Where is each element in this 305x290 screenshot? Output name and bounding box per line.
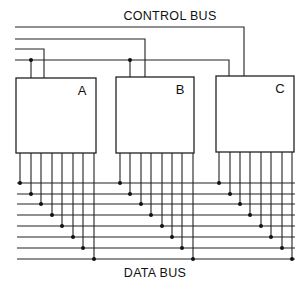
junction-dot — [280, 246, 284, 250]
junction-dot — [81, 246, 85, 250]
junction-dot — [160, 224, 164, 228]
junction-dot — [139, 202, 143, 206]
junction-dot — [18, 181, 22, 185]
junction-dot — [238, 202, 242, 206]
junction-dot — [259, 224, 263, 228]
bus-diagram: CONTROL BUS DATA BUS ABC — [0, 0, 305, 290]
junction-dot — [60, 224, 64, 228]
control-bus-label: CONTROL BUS — [123, 9, 216, 23]
data-bus — [17, 183, 295, 259]
data-bus-label: DATA BUS — [124, 266, 186, 280]
module-c: C — [216, 76, 294, 152]
junction-dot — [118, 181, 122, 185]
control-line-2 — [15, 39, 145, 77]
junction-dot — [39, 202, 43, 206]
module-a: A — [16, 78, 96, 153]
junction-dot — [128, 192, 132, 196]
modules: ABC — [16, 76, 294, 153]
junction-dot — [29, 192, 33, 196]
junction-dot — [50, 213, 54, 217]
module-b-label: B — [176, 82, 185, 97]
junction-dot — [180, 246, 184, 250]
module-a-label: A — [78, 83, 87, 98]
junction-dot — [71, 235, 75, 239]
control-bus — [15, 27, 244, 78]
junction-dot — [228, 192, 232, 196]
junction-dot — [217, 181, 221, 185]
junction-dot — [170, 235, 174, 239]
junction-dot — [290, 257, 294, 261]
junction-dot — [269, 235, 273, 239]
junction-dot — [149, 213, 153, 217]
junction-dot — [92, 257, 96, 261]
control-line-4 — [15, 60, 229, 76]
junction-dot — [248, 213, 252, 217]
control-line-3 — [15, 49, 44, 78]
module-c-label: C — [275, 81, 284, 96]
junction-dot — [191, 257, 195, 261]
junction-dot — [29, 58, 33, 62]
module-output-wires — [20, 152, 292, 259]
junction-dot — [128, 58, 132, 62]
module-b: B — [116, 77, 194, 153]
